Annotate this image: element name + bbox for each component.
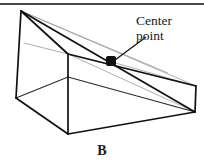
center-point-marker — [106, 56, 116, 66]
center-point-annotation: Center point — [136, 14, 172, 43]
edge-front-to-rightvertex — [68, 112, 195, 134]
figure-panel-b: Center point B — [0, 0, 204, 166]
annotation-line-2: point — [136, 29, 172, 44]
edge-apex-to-midtop — [21, 11, 68, 54]
panel-letter-label: B — [0, 143, 204, 159]
bottom-edge-left-to-back — [16, 77, 68, 98]
bottom-face-edges — [16, 77, 195, 112]
edge-left-vertical — [16, 11, 21, 98]
annotation-line-1: Center — [136, 13, 172, 28]
edge-right-upper-to-vertex — [195, 86, 196, 112]
edge-leftbottom-to-front — [16, 98, 68, 134]
wireframe-diagram — [0, 0, 204, 166]
faint-line-center-to-rightvertex — [68, 54, 195, 112]
bottom-edge-back-to-right — [68, 77, 195, 112]
